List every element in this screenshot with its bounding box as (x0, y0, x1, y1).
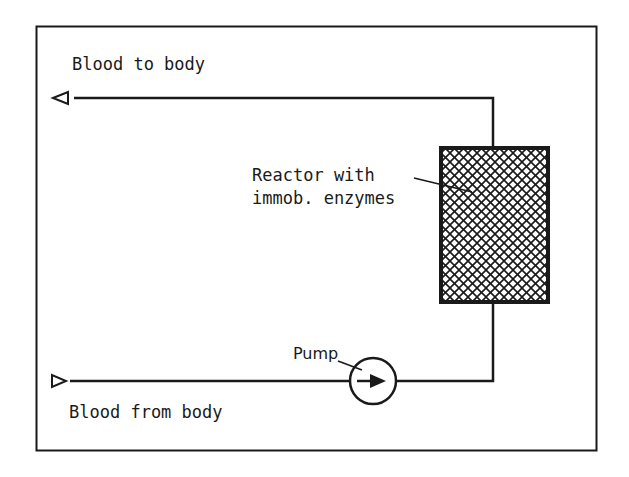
reactor-box (441, 148, 548, 302)
pump-label: Pump (293, 343, 338, 365)
outlet-pipe (74, 98, 493, 148)
reactor-label-line1: Reactor with (252, 164, 375, 186)
reactor-label-line2: immob. enzymes (252, 187, 395, 209)
blood-to-body-label: Blood to body (72, 53, 205, 75)
pump-icon (350, 358, 396, 404)
outlet-arrow-icon (53, 92, 68, 104)
inlet-arrow-icon (52, 375, 66, 387)
inlet-pipe (396, 302, 493, 381)
blood-from-body-label: Blood from body (69, 401, 223, 423)
